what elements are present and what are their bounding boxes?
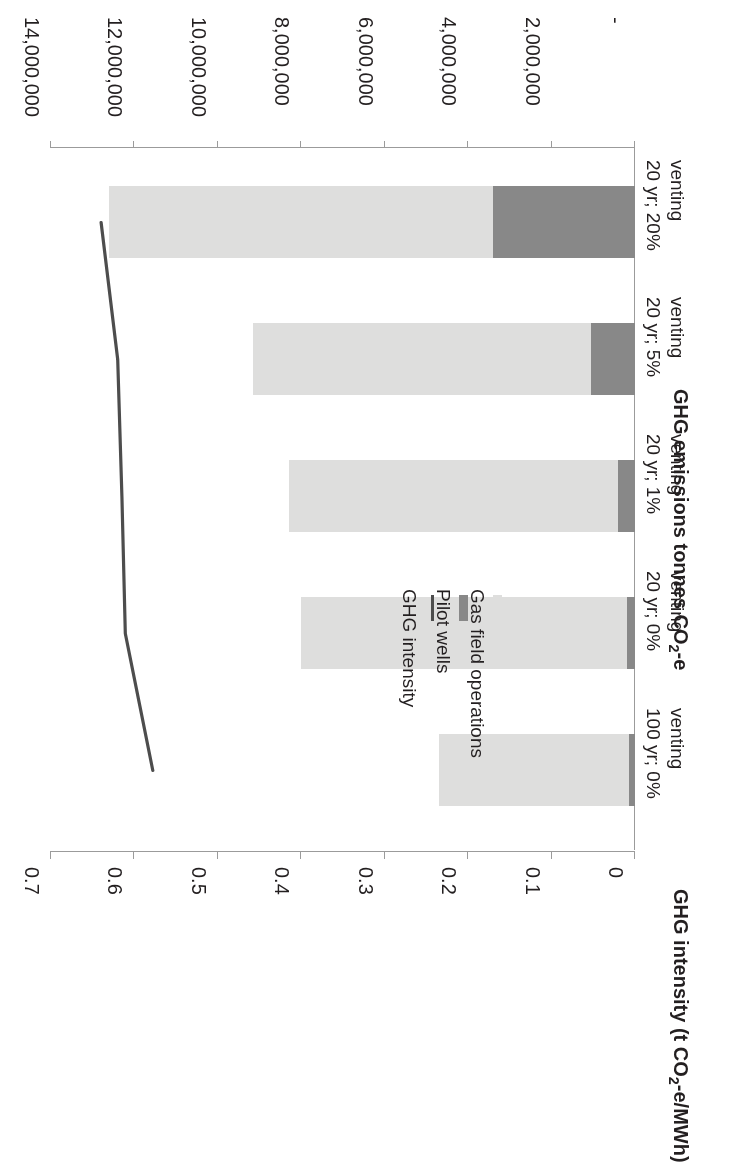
legend-label: Gas field operations	[466, 589, 488, 758]
legend-marker-ghg-intensity	[431, 595, 434, 621]
secondary-axis-title: GHG intensity (t CO2-e/MWh)	[666, 889, 692, 1163]
primary-axis-title: GHG emissions tonnes CO2-e	[666, 389, 692, 670]
legend-label: GHG intensity	[398, 589, 420, 707]
legend-label: Pilot wells	[432, 589, 454, 673]
legend-marker-pilot-wells	[459, 595, 468, 621]
legend-marker-gas-field-operations	[493, 595, 502, 621]
